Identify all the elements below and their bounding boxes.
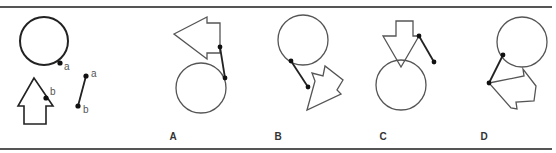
option-figure-d: [487, 17, 547, 109]
option-label-c: C: [379, 131, 386, 142]
answer-options: [174, 15, 547, 113]
option-label-d: D: [480, 131, 487, 142]
reference-connecting-segment: [78, 76, 86, 106]
reference-arrow-shape: [18, 78, 53, 124]
option-arrow-shape: [489, 69, 536, 109]
reference-label-b-segment: b: [83, 104, 89, 115]
option-segment-endpoint: [223, 76, 228, 81]
option-segment-endpoint: [306, 85, 311, 90]
reference-label-b-arrow: b: [50, 86, 56, 97]
reference-label-a-segment: a: [91, 68, 97, 79]
reference-segment-point-b: [75, 103, 80, 108]
option-figure-b: [278, 15, 343, 110]
reference-circle: [20, 17, 68, 65]
option-label-a: A: [169, 131, 176, 142]
option-segment-endpoint: [432, 60, 437, 65]
option-circle: [497, 17, 547, 67]
option-segment-endpoint: [218, 45, 223, 50]
option-figure-a: [174, 17, 227, 113]
option-segment-endpoint: [289, 59, 294, 64]
option-segment-endpoint: [487, 81, 492, 86]
option-connecting-segment: [489, 55, 503, 83]
option-segment-endpoint: [417, 34, 422, 39]
option-circle: [278, 15, 328, 65]
reference-segment-point-a: [83, 73, 88, 78]
option-figure-c: [376, 21, 436, 110]
reference-point-a-on-circle: [57, 60, 62, 65]
reference-figure: [18, 17, 89, 124]
option-label-b: B: [274, 131, 281, 142]
reference-label-a-circle: a: [64, 61, 70, 72]
option-arrow-shape: [307, 66, 343, 110]
option-arrow-shape: [174, 17, 220, 59]
option-circle: [176, 63, 226, 113]
option-segment-endpoint: [501, 53, 506, 58]
option-connecting-segment: [419, 36, 434, 62]
reference-point-b-on-arrow: [43, 95, 48, 100]
